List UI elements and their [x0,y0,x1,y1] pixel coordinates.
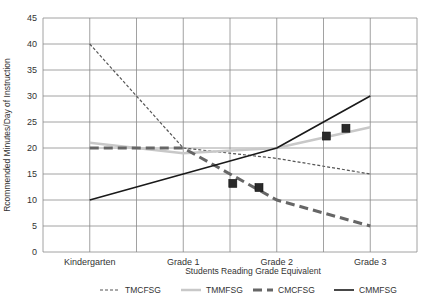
y-tick-label: 25 [27,117,37,127]
grid [43,18,417,252]
square-marker [322,132,330,140]
square-marker [255,184,263,192]
y-tick-label: 0 [32,247,37,257]
line-chart: 051015202530354045 KindergartenGrade 1Gr… [0,0,427,302]
x-tick-label: Kindergarten [64,257,116,267]
x-tick-label: Grade 3 [354,257,387,267]
legend-label-tmmfsg: TMMFSG [206,285,243,295]
square-marker [342,124,350,132]
legend-label-tmcfsg: TMCFSG [125,285,161,295]
y-tick-label: 45 [27,13,37,23]
legend: TMCFSGTMMFSGCMCFSGCMMFSG [100,285,397,295]
legend-label-cmcfsg: CMCFSG [278,285,315,295]
y-tick-label: 40 [27,39,37,49]
y-tick-label: 35 [27,65,37,75]
x-axis-title: Students Reading Grade Equivalent [185,266,321,276]
square-markers [229,124,350,191]
legend-label-cmmfsg: CMMFSG [359,285,397,295]
y-tick-label: 5 [32,221,37,231]
y-tick-label: 15 [27,169,37,179]
y-axis-ticks: 051015202530354045 [27,13,37,257]
y-tick-label: 20 [27,143,37,153]
y-tick-label: 30 [27,91,37,101]
square-marker [229,179,237,187]
y-tick-label: 10 [27,195,37,205]
y-axis-title: Rcommended Minutes/Day of Instruction [2,58,12,212]
